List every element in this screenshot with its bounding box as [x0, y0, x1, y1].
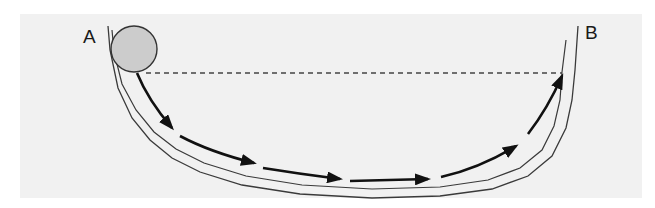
motion-arrow-1 [137, 73, 172, 128]
diagram-stage: A B [0, 0, 655, 208]
track-diagram [0, 0, 655, 208]
motion-arrow-2 [180, 136, 254, 163]
point-a-label: A [83, 26, 96, 48]
track-inner-wall [112, 30, 566, 189]
ball [111, 26, 157, 72]
motion-arrow-5 [441, 146, 516, 177]
motion-arrow-4 [350, 179, 428, 181]
motion-arrow-6 [528, 76, 562, 134]
motion-arrow-3 [263, 168, 340, 179]
point-b-label: B [585, 22, 598, 44]
